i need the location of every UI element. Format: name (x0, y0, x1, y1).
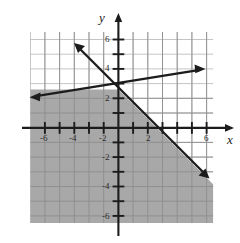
xtick-label--6: -6 (40, 134, 48, 143)
xtick-label-6: 6 (204, 134, 209, 143)
xtick-label-2: 2 (146, 134, 151, 143)
ytick-label-2: 2 (105, 94, 110, 103)
x-axis-label: x (227, 133, 233, 146)
coordinate-plane-svg (0, 0, 240, 243)
xtick-label--2: -2 (99, 134, 107, 143)
ytick-label-6: 6 (105, 35, 110, 44)
graph-figure: -6 -4 -2 2 6 6 4 2 -2 -4 -6 x y (0, 0, 240, 243)
ytick-label--2: -2 (102, 153, 110, 162)
xtick-label--4: -4 (69, 134, 77, 143)
ytick-label--4: -4 (102, 182, 110, 191)
ytick-label--6: -6 (102, 212, 110, 221)
ytick-label-4: 4 (105, 64, 110, 73)
y-axis-label: y (99, 11, 105, 24)
